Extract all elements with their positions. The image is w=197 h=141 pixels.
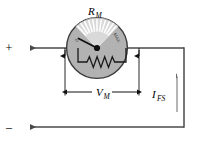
- circuit-diagram-figure: 0 MAX V M: [0, 0, 197, 141]
- circuit-diagram-canvas: 0 MAX V M: [0, 0, 197, 141]
- rm-label-main: R: [87, 5, 95, 17]
- rm-label-sub: M: [95, 11, 103, 20]
- terminal-positive-sign: +: [6, 41, 13, 55]
- meter-needle-pivot: [94, 45, 100, 51]
- terminal-negative-sign: –: [5, 120, 13, 134]
- rm-label: R M: [87, 5, 103, 20]
- ifs-label-sub: FS: [156, 94, 166, 103]
- vm-label-sub: M: [103, 92, 111, 101]
- meter-assembly: 0 MAX: [67, 18, 128, 79]
- ifs-current-indicator: I FS: [151, 76, 177, 112]
